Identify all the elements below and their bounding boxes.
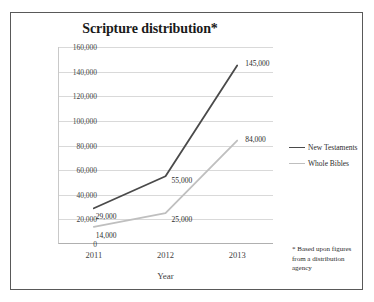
chart-footnote: * Based upon figures from a distribution… bbox=[292, 245, 366, 274]
data-point-label: 25,000 bbox=[172, 215, 193, 224]
footnote-line-2: from a distribution bbox=[292, 255, 366, 265]
x-axis-tick-label: 2011 bbox=[64, 250, 124, 260]
series-line bbox=[94, 65, 237, 208]
legend-swatch-icon bbox=[289, 147, 305, 148]
chart-title: Scripture distribution* bbox=[11, 21, 289, 37]
data-point-label: 84,000 bbox=[245, 135, 266, 144]
x-axis-tick-label: 2012 bbox=[136, 250, 196, 260]
chart-legend: New TestamentsWhole Bibles bbox=[289, 141, 373, 173]
legend-swatch-icon bbox=[289, 163, 305, 164]
footnote-line-1: * Based upon figures bbox=[292, 245, 366, 255]
legend-label: Whole Bibles bbox=[308, 159, 349, 168]
data-point-label: 14,000 bbox=[96, 231, 117, 240]
legend-item[interactable]: Whole Bibles bbox=[289, 157, 373, 170]
series-lines bbox=[58, 47, 273, 244]
x-axis-title: Year bbox=[58, 271, 273, 281]
legend-label: New Testaments bbox=[308, 143, 358, 152]
x-axis-tick-label: 2013 bbox=[207, 250, 267, 260]
legend-item[interactable]: New Testaments bbox=[289, 141, 373, 154]
footnote-line-3: agency bbox=[292, 264, 366, 274]
data-point-label: 55,000 bbox=[172, 176, 193, 185]
data-point-label: 29,000 bbox=[96, 212, 117, 221]
chart-frame: Scripture distribution* 020,00040,00060,… bbox=[10, 12, 363, 290]
data-point-label: 145,000 bbox=[245, 59, 269, 68]
